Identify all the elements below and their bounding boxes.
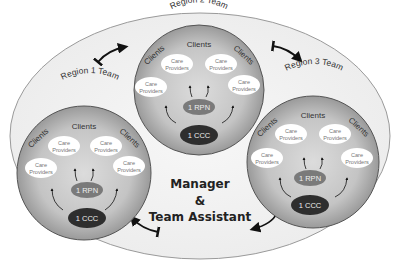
team-structure-diagram: Manager & Team Assistant Clients Clients… [0,0,395,267]
clients-label: Clients [301,111,325,120]
care-providers-node: CareProviders [48,136,80,156]
svg-text:Care: Care [100,140,112,146]
region-3-team: Clients Clients Clients CareProviders Ca… [247,96,379,228]
svg-text:Providers: Providers [94,147,118,153]
svg-text:Care: Care [261,152,273,158]
svg-text:Care: Care [58,140,70,146]
svg-text:Providers: Providers [279,135,303,141]
clients-label: Clients [187,40,211,49]
care-providers-node: CareProviders [205,54,237,74]
ccc-node: 1 CCC [180,125,218,145]
svg-text:1 RPN: 1 RPN [76,186,98,195]
svg-text:1 RPN: 1 RPN [299,174,321,183]
care-providers-node: CareProviders [135,77,167,97]
care-providers-node: CareProviders [275,124,307,144]
svg-text:Providers: Providers [165,65,189,71]
svg-text:Care: Care [35,162,47,168]
svg-text:Care: Care [145,81,157,87]
care-providers-node: CareProviders [228,75,260,95]
svg-text:Care: Care [285,128,297,134]
svg-text:Care: Care [351,152,363,158]
clients-label: Clients [72,122,96,131]
svg-text:1 RPN: 1 RPN [188,103,210,112]
rpn-node: 1 RPN [71,182,103,198]
region-1-team: Clients Clients Clients CareProviders Ca… [17,106,151,240]
care-providers-node: CareProviders [161,54,193,74]
svg-text:Providers: Providers [345,159,369,165]
care-providers-node: CareProviders [251,148,283,168]
svg-text:Providers: Providers [52,147,76,153]
ccc-node: 1 CCC [291,195,329,215]
svg-text:Providers: Providers [29,169,53,175]
svg-text:Providers: Providers [232,86,256,92]
care-providers-node: CareProviders [341,148,373,168]
svg-text:Care: Care [238,79,250,85]
care-providers-node: CareProviders [90,136,122,156]
ampersand-label: & [195,194,205,208]
rpn-node: 1 RPN [183,99,215,115]
svg-text:Providers: Providers [117,167,141,173]
team-assistant-label: Team Assistant [149,210,252,224]
manager-label: Manager [170,177,229,191]
care-providers-node: CareProviders [319,124,351,144]
svg-text:Providers: Providers [139,88,163,94]
svg-text:Providers: Providers [209,65,233,71]
rpn-node: 1 RPN [294,170,326,186]
region-2-team: Clients Clients Clients CareProviders Ca… [134,25,264,155]
svg-text:Providers: Providers [255,159,279,165]
svg-text:1 CCC: 1 CCC [76,214,99,223]
svg-text:Care: Care [171,58,183,64]
svg-text:1 CCC: 1 CCC [299,201,322,210]
ccc-node: 1 CCC [68,208,106,228]
svg-text:Providers: Providers [323,135,347,141]
care-providers-node: CareProviders [113,156,145,176]
care-providers-node: CareProviders [25,158,57,178]
svg-text:Care: Care [123,160,135,166]
svg-text:Care: Care [215,58,227,64]
region-2-team-title: Region 2 Team [168,0,230,11]
svg-text:Care: Care [329,128,341,134]
svg-text:1 CCC: 1 CCC [188,131,211,140]
